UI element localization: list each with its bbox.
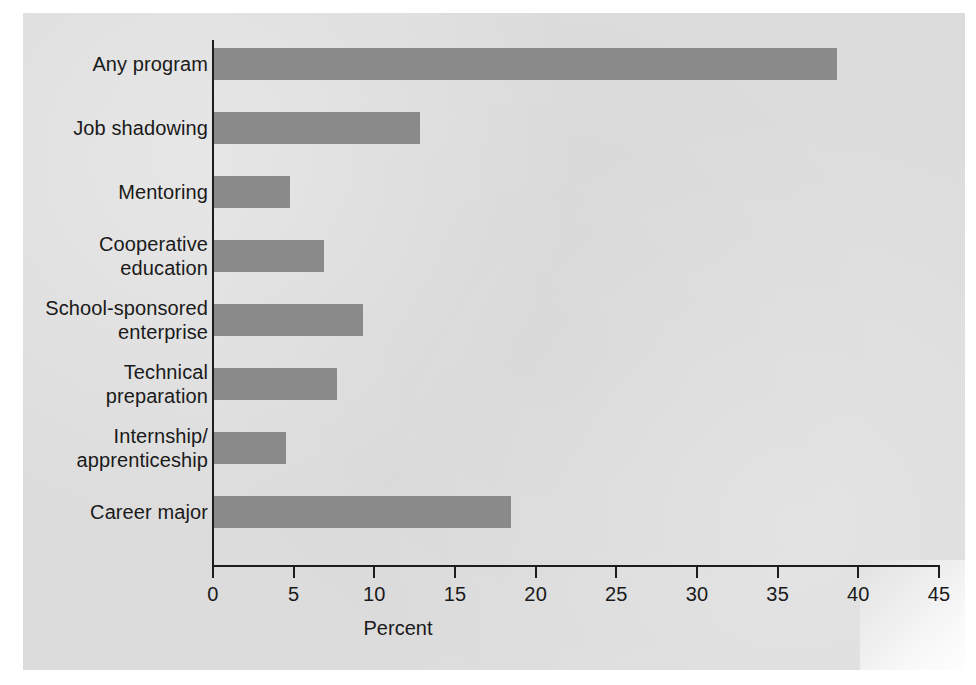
x-axis-tick: [373, 567, 375, 578]
category-label: Mentoring: [0, 180, 208, 204]
x-axis-tick: [535, 567, 537, 578]
category-label-line: Mentoring: [0, 180, 208, 204]
category-label: Job shadowing: [0, 116, 208, 140]
category-label-line: Cooperative: [0, 232, 208, 256]
category-label-line: Job shadowing: [0, 116, 208, 140]
category-label: Technicalpreparation: [0, 360, 208, 408]
x-axis-tick-label: 30: [667, 583, 727, 606]
category-label-line: enterprise: [0, 320, 208, 344]
category-label-line: School-sponsored: [0, 296, 208, 320]
x-axis-title-text: Percent: [364, 617, 433, 639]
bar: [214, 304, 363, 336]
x-axis-tick-label: 35: [748, 583, 808, 606]
category-label: Any program: [0, 52, 208, 76]
x-axis-tick: [212, 567, 214, 578]
x-axis-tick: [938, 567, 940, 578]
x-axis-tick-label: 10: [344, 583, 404, 606]
category-label-line: apprenticeship: [0, 448, 208, 472]
bar: [214, 368, 337, 400]
bar: [214, 112, 420, 144]
bar: [214, 48, 837, 80]
category-label-line: Internship/: [0, 424, 208, 448]
x-axis-tick: [615, 567, 617, 578]
category-label-line: Any program: [0, 52, 208, 76]
x-axis-tick-label: 25: [586, 583, 646, 606]
category-label-line: preparation: [0, 384, 208, 408]
bar: [214, 432, 286, 464]
bar: [214, 240, 324, 272]
x-axis-title: Percent: [0, 617, 976, 640]
bar: [214, 176, 290, 208]
category-label: Internship/apprenticeship: [0, 424, 208, 472]
bar-chart-figure: 051015202530354045 Any programJob shadow…: [0, 0, 976, 685]
x-axis-tick: [454, 567, 456, 578]
category-label-line: Technical: [0, 360, 208, 384]
x-axis-tick-label: 15: [425, 583, 485, 606]
x-axis-tick-label: 5: [264, 583, 324, 606]
category-label-line: Career major: [0, 500, 208, 524]
x-axis-tick-label: 45: [909, 583, 969, 606]
category-label: Career major: [0, 500, 208, 524]
category-label-line: education: [0, 256, 208, 280]
bar: [214, 496, 511, 528]
plot-area: 051015202530354045 Any programJob shadow…: [0, 0, 976, 685]
x-axis-tick-label: 40: [828, 583, 888, 606]
x-axis-tick: [696, 567, 698, 578]
x-axis-tick: [777, 567, 779, 578]
x-axis-tick-label: 20: [506, 583, 566, 606]
category-label: Cooperativeeducation: [0, 232, 208, 280]
x-axis-tick-label: 0: [183, 583, 243, 606]
x-axis-line: [212, 565, 940, 567]
x-axis-tick: [293, 567, 295, 578]
category-label: School-sponsoredenterprise: [0, 296, 208, 344]
x-axis-tick: [857, 567, 859, 578]
